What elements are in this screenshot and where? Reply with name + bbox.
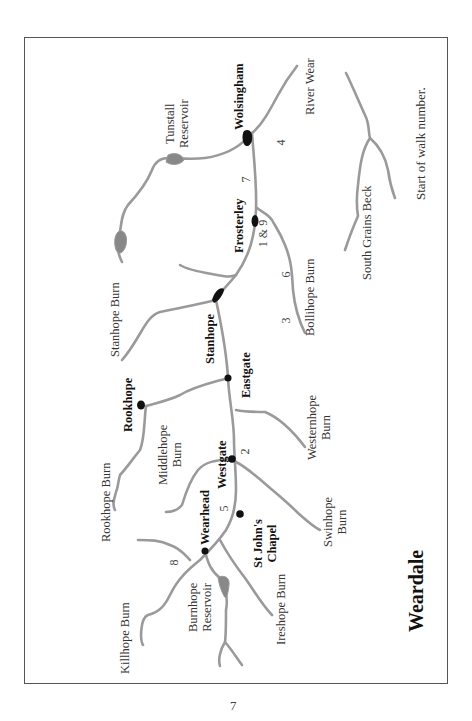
westgate-marker — [228, 455, 236, 463]
stanhope-marker — [212, 288, 224, 303]
water-label-bollihope-burn: Bollihope Burn — [303, 259, 317, 336]
westernhope-line2: Burn — [319, 395, 333, 460]
water-label-ireshope-burn: Ireshope Burn — [274, 574, 288, 645]
walk-number-7: 7 — [239, 177, 254, 183]
town-label-stanhope: Stanhope — [203, 314, 217, 364]
burnhope-line2: Reservoir — [200, 583, 214, 632]
walk-number-8: 8 — [167, 560, 182, 566]
water-label-tunstall-reservoir: Tunstall Reservoir — [163, 99, 191, 148]
town-label-st-johns-chapel: St John's Chapel — [251, 519, 279, 568]
eastgate-marker — [225, 375, 232, 382]
stanhope-burn — [122, 300, 216, 360]
walk-number-6: 6 — [279, 272, 294, 278]
wolsingham-marker — [243, 130, 253, 146]
map-title: Weardale — [405, 550, 428, 632]
wearhead-marker — [202, 548, 209, 555]
water-label-burnhope-reservoir: Burnhope Reservoir — [186, 583, 214, 632]
walk-number-1-and-9: 1 & 9 — [256, 220, 271, 247]
tunstall-line1: Tunstall — [163, 99, 177, 148]
river-wear-east — [252, 66, 297, 133]
water-label-river-wear: River Wear — [303, 58, 317, 115]
wearhead-north-stream — [138, 540, 190, 560]
walk-number-5: 5 — [217, 506, 232, 512]
swinhope-line2: Burn — [335, 497, 349, 547]
town-label-wearhead: Wearhead — [198, 490, 212, 545]
st-johns-chapel-marker — [236, 510, 244, 518]
town-label-rookhope: Rookhope — [121, 378, 135, 432]
water-label-swinhope-burn: Swinhope Burn — [321, 497, 349, 547]
middlehope-line1: Middlehope — [156, 425, 170, 485]
rookhope-burn-lower — [146, 378, 228, 406]
water-label-stanhope-burn: Stanhope Burn — [108, 282, 122, 357]
page-number: 7 — [230, 698, 237, 714]
st-johns-line2: Chapel — [265, 519, 279, 568]
town-label-wolsingham: Wolsingham — [232, 63, 246, 130]
middlehope-line2: Burn — [170, 425, 184, 485]
town-label-frosterley: Frosterley — [232, 198, 246, 253]
westernhope-burn — [236, 410, 305, 447]
stanhope-side-stream — [180, 265, 236, 277]
town-label-eastgate: Eastgate — [239, 352, 253, 398]
st-johns-line1: St John's — [251, 519, 265, 568]
walk-number-2: 2 — [238, 449, 253, 455]
water-label-killhope-burn: Killhope Burn — [118, 602, 132, 674]
water-label-westernhope-burn: Westernhope Burn — [305, 395, 333, 460]
tunstall-reservoir-shape — [166, 154, 184, 165]
water-label-south-grains-beck: South Grains Beck — [360, 186, 374, 280]
tunstall-line2: Reservoir — [177, 99, 191, 148]
westernhope-line1: Westernhope — [305, 395, 319, 460]
water-label-middlehope-burn: Middlehope Burn — [156, 425, 184, 485]
legend-text: Start of walk number. — [414, 87, 428, 200]
water-label-rookhope-burn: Rookhope Burn — [99, 462, 113, 542]
rookhope-marker — [137, 401, 145, 410]
town-label-westgate: Westgate — [215, 440, 229, 489]
walk-number-3: 3 — [279, 318, 294, 324]
walk-number-4: 4 — [274, 140, 289, 146]
unnamed-reservoir-shape — [115, 231, 127, 253]
burnhope-line1: Burnhope — [186, 583, 200, 632]
swinhope-line1: Swinhope — [321, 497, 335, 547]
burnhope-reservoir-shape — [218, 576, 229, 597]
